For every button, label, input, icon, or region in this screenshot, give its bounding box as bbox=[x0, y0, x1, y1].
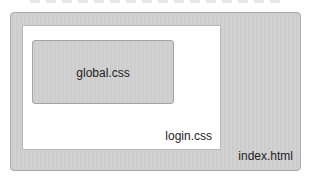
clipped-caption-fragment bbox=[30, 0, 280, 3]
global-css-box: global.css bbox=[32, 40, 174, 104]
global-css-label: global.css bbox=[33, 66, 173, 80]
index-html-label: index.html bbox=[238, 149, 293, 163]
login-css-label: login.css bbox=[165, 129, 212, 143]
